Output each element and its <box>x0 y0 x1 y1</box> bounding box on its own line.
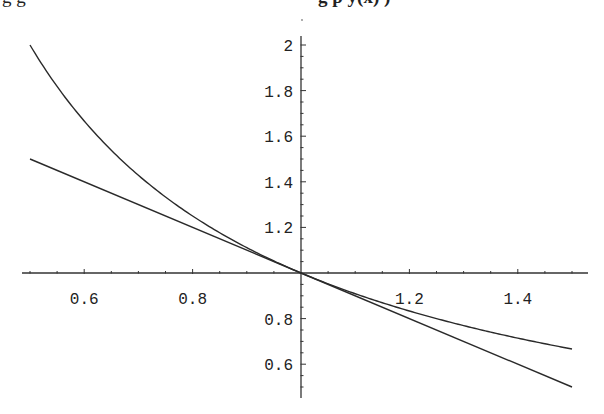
x-tick-label: 1.2 <box>395 291 424 309</box>
y-tick-label: 2 <box>283 38 293 56</box>
y-tick-label: 0.6 <box>264 357 293 375</box>
x-tick-label: 0.6 <box>70 291 99 309</box>
stray-dot <box>301 19 303 21</box>
y-tick-label: 0.8 <box>264 312 293 330</box>
y-tick-label: 1.4 <box>264 175 293 193</box>
y-tick-label: 1.6 <box>264 129 293 147</box>
y-tick-label: 1.8 <box>264 84 293 102</box>
plot-area: 0.60.81.21.40.60.81.21.41.61.82 <box>0 0 604 414</box>
x-tick-label: 0.8 <box>178 291 207 309</box>
x-tick-label: 1.4 <box>503 291 532 309</box>
y-tick-label: 1.2 <box>264 220 293 238</box>
